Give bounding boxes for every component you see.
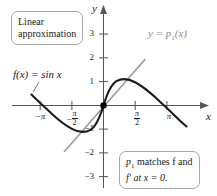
x-tick-label-pi-over-2: π2 bbox=[126, 110, 148, 127]
curve-label: f(x) = sin x bbox=[13, 68, 62, 80]
y-tick-label-2: 2 bbox=[78, 52, 94, 62]
callout-linear-approximation-line2: approximation bbox=[18, 28, 76, 40]
y-axis-label: y bbox=[92, 2, 97, 14]
curve-label-leader bbox=[33, 82, 39, 92]
y-tick-label-1: 1 bbox=[78, 76, 94, 86]
x-tick-label-minus-pi-over-2: −π2 bbox=[61, 110, 83, 127]
x-axis-label: x bbox=[206, 110, 211, 122]
callout-matches-note: p1 matches f and f′ at x = 0. bbox=[119, 151, 200, 189]
callout-matches-note-line1: p1 matches f and bbox=[126, 156, 193, 172]
callout-linear-approximation-line1: Linear bbox=[18, 16, 76, 28]
x-tick-label-minus-pi: −π bbox=[29, 111, 51, 121]
tangent-line-label-prefix: y = p bbox=[148, 27, 171, 39]
x-tick-label-pi: π bbox=[158, 111, 180, 121]
y-tick-label-minus-3: −3 bbox=[78, 171, 94, 181]
tangency-point bbox=[100, 102, 106, 108]
callout-linear-approximation: Linear approximation bbox=[11, 11, 83, 45]
tangent-line-label-rest: (x) bbox=[175, 27, 187, 39]
y-tick-label-minus-2: −2 bbox=[78, 147, 94, 157]
callout-matches-note-line2: f′ at x = 0. bbox=[126, 172, 193, 184]
callout-matches-text: matches f and bbox=[135, 156, 193, 167]
tangent-line-label: y = p1(x) bbox=[148, 27, 187, 42]
linear-approximation-figure: y x f(x) = sin x y = p1(x) 3 2 1 −1 −2 −… bbox=[0, 0, 217, 196]
